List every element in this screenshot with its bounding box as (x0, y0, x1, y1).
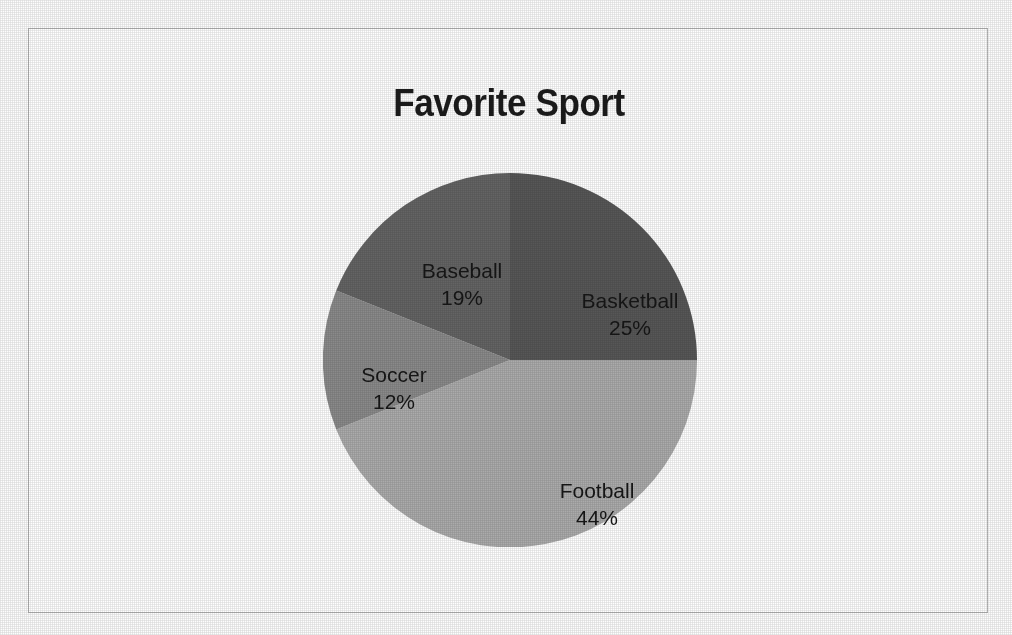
pie-chart-plot-area (323, 173, 697, 547)
chart-title: Favorite Sport (77, 81, 941, 125)
pie-chart-svg (323, 173, 697, 547)
chart-frame: Favorite Sport Basketball 25% Football 4… (28, 28, 988, 613)
pie-slice-basketball[interactable] (510, 173, 697, 360)
